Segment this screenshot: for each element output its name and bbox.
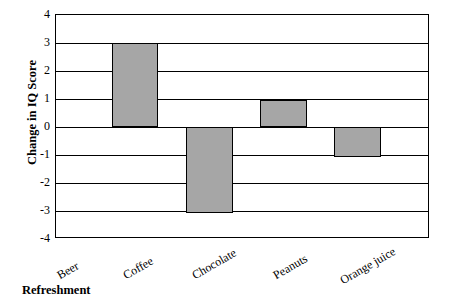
- y-tick-label: -1: [6, 148, 50, 160]
- y-tick-label: -4: [6, 232, 50, 244]
- x-tick-label-coffee: Coffee: [121, 254, 157, 283]
- y-tick-label: 2: [6, 64, 50, 76]
- y-tick-label: 3: [6, 36, 50, 48]
- x-tick-label-chocolate: Chocolate: [190, 246, 240, 283]
- gridline-n3: [56, 211, 428, 212]
- y-tick-label: -3: [6, 204, 50, 216]
- x-tick-label-beer: Beer: [55, 259, 82, 283]
- y-tick-label: 0: [6, 120, 50, 132]
- y-tick-label: -2: [6, 176, 50, 188]
- y-axis-ticks: 4 3 2 1 0 -1 -2 -3 -4: [0, 14, 50, 238]
- gridline-n2: [56, 183, 428, 184]
- x-tick-label-peanuts: Peanuts: [271, 251, 311, 283]
- y-tick-label: 4: [6, 8, 50, 20]
- bar-chocolate: [186, 127, 233, 213]
- plot-area: [55, 14, 429, 238]
- bar-peanuts: [260, 100, 307, 127]
- bar-chart: Change in IQ Score 4 3 2 1 0 -1 -2 -3 -4…: [0, 0, 449, 305]
- x-axis-title: Refreshment: [22, 283, 91, 298]
- x-tick-label-orange-juice: Orange juice: [338, 244, 399, 288]
- bar-coffee: [112, 43, 158, 127]
- bar-orange-juice: [334, 127, 381, 157]
- y-tick-label: 1: [6, 92, 50, 104]
